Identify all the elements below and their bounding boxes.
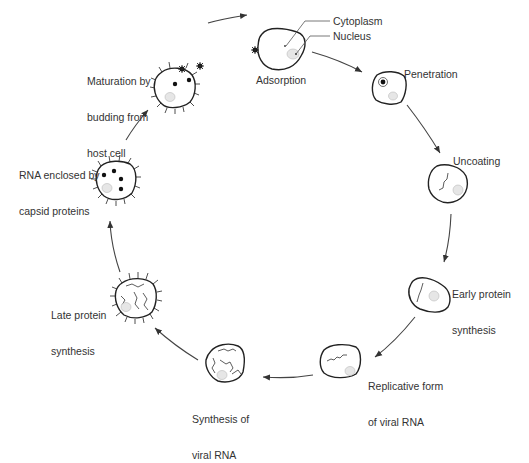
label-early-protein-line1: Early protein xyxy=(452,288,511,300)
cell-late-protein xyxy=(110,272,162,324)
label-replicative-form-line1: Replicative form xyxy=(368,380,443,392)
label-late-protein: Late protein synthesis xyxy=(51,285,106,381)
budding-virion-icon xyxy=(178,65,186,73)
label-maturation-line1: Maturation by xyxy=(87,75,151,87)
label-synthesis-rna-line1: Synthesis of xyxy=(192,413,249,425)
label-synthesis-rna-line2: viral RNA xyxy=(192,449,249,461)
label-late-protein-line1: Late protein xyxy=(51,309,106,321)
label-early-protein-line2: synthesis xyxy=(452,324,511,336)
label-penetration: Penetration xyxy=(404,68,458,80)
label-late-protein-line2: synthesis xyxy=(51,345,106,357)
label-synthesis-rna: Synthesis of viral RNA xyxy=(192,389,249,463)
label-rna-enclosed-line2: capsid proteins xyxy=(19,205,100,217)
label-replicative-form-line2: of viral RNA xyxy=(368,416,443,428)
cell-maturation xyxy=(150,62,204,114)
label-maturation-line3: host cell xyxy=(87,147,151,159)
cell-replicative-form xyxy=(320,345,360,378)
label-maturation-line2: budding from xyxy=(87,111,151,123)
cell-penetration xyxy=(372,72,406,104)
label-early-protein: Early protein synthesis xyxy=(452,264,511,360)
cell-adsorption xyxy=(251,21,330,70)
cell-synthesis-rna xyxy=(206,344,245,382)
cell-uncoating xyxy=(428,165,467,203)
label-replicative-form: Replicative form of viral RNA xyxy=(368,356,443,452)
virus-particle-icon xyxy=(251,46,259,54)
label-uncoating: Uncoating xyxy=(453,155,500,167)
released-virion-icon xyxy=(196,62,204,70)
cell-early-protein xyxy=(409,278,450,312)
label-nucleus: Nucleus xyxy=(333,30,371,42)
label-cytoplasm: Cytoplasm xyxy=(333,15,383,27)
label-maturation: Maturation by budding from host cell xyxy=(87,51,151,183)
label-adsorption: Adsorption xyxy=(256,74,306,86)
